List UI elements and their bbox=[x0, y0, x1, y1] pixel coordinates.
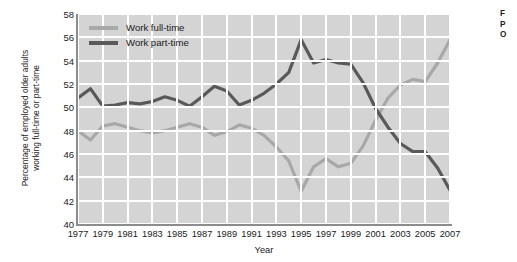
x-axis-tick-label: 1983 bbox=[142, 229, 163, 239]
grid-line-vertical bbox=[226, 14, 228, 224]
legend-item: Work part-time bbox=[89, 37, 189, 48]
y-axis-tick-label: 48 bbox=[50, 125, 74, 136]
legend-label: Work full-time bbox=[126, 22, 184, 33]
x-axis-tick-labels: 1977197919811983198519871989199119931995… bbox=[0, 229, 517, 243]
legend-label: Work part-time bbox=[126, 37, 189, 48]
grid-line-horizontal bbox=[78, 223, 450, 224]
y-axis-title-line-1: Percentage of employed older adults bbox=[20, 50, 31, 186]
y-axis-tick-label: 40 bbox=[50, 219, 74, 230]
x-axis-tick-label: 1995 bbox=[291, 229, 312, 239]
grid-line-vertical bbox=[325, 14, 327, 224]
grid-line-horizontal bbox=[78, 176, 450, 178]
series-line bbox=[78, 40, 450, 192]
grid-line-vertical bbox=[350, 14, 352, 224]
x-axis-tick-label: 1987 bbox=[192, 229, 213, 239]
x-axis-tick-label: 2005 bbox=[415, 229, 436, 239]
x-axis-tick-label: 1991 bbox=[241, 229, 262, 239]
y-axis-tick-label: 56 bbox=[50, 32, 74, 43]
y-axis-title-line-2: working full-time or part-time bbox=[31, 50, 42, 186]
y-axis-tick-labels: 58565452504846444240 bbox=[48, 0, 74, 262]
grid-line-vertical bbox=[424, 14, 426, 224]
y-axis-tick-label: 44 bbox=[50, 172, 74, 183]
y-axis-tick-label: 46 bbox=[50, 149, 74, 160]
grid-line-vertical bbox=[300, 14, 302, 224]
grid-line-horizontal bbox=[78, 153, 450, 155]
x-axis-tick-label: 1977 bbox=[68, 229, 89, 239]
chart-figure: Percentage of employed older adults work… bbox=[0, 0, 517, 262]
y-axis-title: Percentage of employed older adults work… bbox=[16, 11, 46, 226]
legend-swatch bbox=[89, 41, 118, 45]
side-caption-line-2: P bbox=[500, 20, 517, 31]
x-axis-tick-label: 1989 bbox=[216, 229, 237, 239]
side-caption-line-3: O bbox=[500, 30, 517, 41]
grid-line-vertical bbox=[399, 14, 401, 224]
x-axis-tick-label: 1981 bbox=[117, 229, 138, 239]
x-axis-tick-label: 1997 bbox=[316, 229, 337, 239]
side-caption: F P O bbox=[500, 9, 517, 41]
grid-line-vertical bbox=[275, 14, 277, 224]
x-axis-tick-label: 2003 bbox=[390, 229, 411, 239]
y-axis-tick-label: 42 bbox=[50, 195, 74, 206]
grid-line-vertical bbox=[78, 14, 79, 224]
grid-line-vertical bbox=[201, 14, 203, 224]
y-axis-tick-label: 54 bbox=[50, 55, 74, 66]
y-axis-tick-label: 50 bbox=[50, 102, 74, 113]
grid-line-horizontal bbox=[78, 130, 450, 132]
x-axis-tick-label: 1999 bbox=[340, 229, 361, 239]
grid-line-vertical bbox=[251, 14, 253, 224]
x-axis-tick-label: 1993 bbox=[266, 229, 287, 239]
x-axis-tick-label: 1985 bbox=[167, 229, 188, 239]
grid-line-horizontal bbox=[78, 14, 450, 15]
grid-line-horizontal bbox=[78, 106, 450, 108]
y-axis-tick-label: 58 bbox=[50, 9, 74, 20]
y-axis-tick-label: 52 bbox=[50, 79, 74, 90]
grid-line-horizontal bbox=[78, 60, 450, 62]
x-axis-tick-label: 2007 bbox=[440, 229, 461, 239]
x-axis-line bbox=[76, 224, 452, 226]
x-axis-tick-label: 2001 bbox=[365, 229, 386, 239]
grid-line-horizontal bbox=[78, 83, 450, 85]
series-line bbox=[78, 40, 450, 191]
legend: Work full-timeWork part-time bbox=[89, 22, 189, 48]
x-axis-title: Year bbox=[78, 245, 450, 255]
legend-item: Work full-time bbox=[89, 22, 189, 33]
grid-line-horizontal bbox=[78, 200, 450, 202]
legend-swatch bbox=[89, 26, 118, 30]
side-caption-line-1: F bbox=[500, 9, 517, 20]
grid-line-vertical bbox=[375, 14, 377, 224]
grid-line-vertical bbox=[449, 14, 450, 224]
x-axis-tick-label: 1979 bbox=[92, 229, 113, 239]
